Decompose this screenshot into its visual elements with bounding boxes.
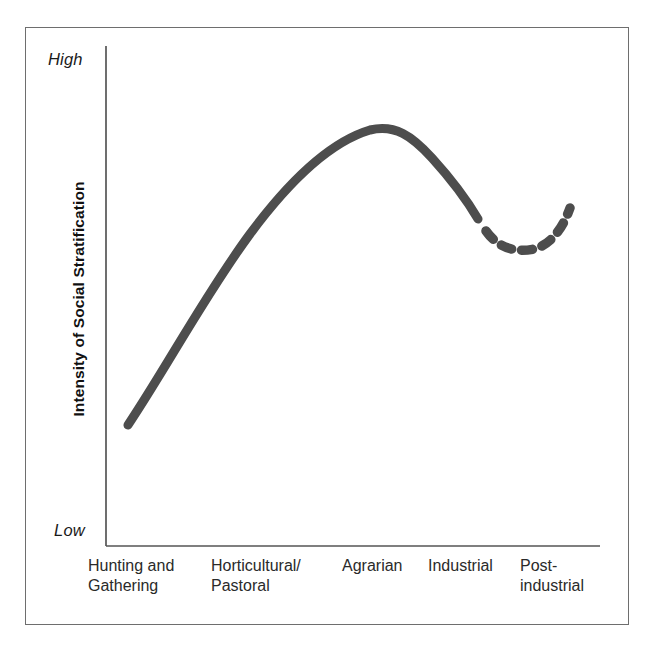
x-tick-label-hunting-and-gathering: Hunting and Gathering — [88, 556, 174, 596]
y-axis-low-label: Low — [54, 521, 85, 540]
x-tick-label-post-industrial: Post- industrial — [520, 556, 584, 596]
x-tick-label-horticultural-pastoral: Horticultural/ Pastoral — [211, 556, 301, 596]
x-tick-label-agrarian: Agrarian — [342, 556, 402, 576]
y-axis-title: Intensity of Social Stratification — [70, 154, 88, 444]
y-axis-high-label: High — [48, 50, 83, 69]
figure-frame — [25, 27, 629, 625]
figure-container: High Low Intensity of Social Stratificat… — [0, 0, 656, 648]
x-tick-label-industrial: Industrial — [428, 556, 493, 576]
